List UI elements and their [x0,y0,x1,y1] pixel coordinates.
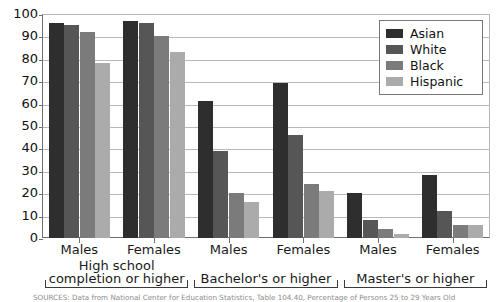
bar-group [266,14,341,238]
legend-item-black[interactable]: Black [386,57,477,73]
bar-black-females-1 [154,36,169,238]
bar-white-males-0 [64,25,79,238]
x-axis-category-label: Females [117,243,192,257]
bar-asian-males-2 [198,101,213,238]
x-axis-category-labels: MalesFemalesMalesFemalesMalesFemales [42,243,490,259]
group-bracket: High school completion or higher [45,262,188,292]
source-note: SOURCES: Data from National Center for E… [33,293,493,302]
y-axis-tick-label: 90 [0,29,38,42]
group-bracket: Bachelor's or higher [194,262,337,292]
legend-item-label: Hispanic [410,75,463,88]
bar-chart-figure: 0102030405060708090100 MalesFemalesMales… [0,0,500,302]
group-bracket-label: Bachelor's or higher [194,272,337,285]
legend-item-hispanic[interactable]: Hispanic [386,73,477,89]
bar-hispanic-males-0 [95,63,110,238]
y-axis-tick-label: 30 [0,164,38,177]
bar-hispanic-males-4 [394,234,409,238]
bar-asian-females-5 [422,175,437,238]
y-axis-tick-label: 20 [0,186,38,199]
bar-group [191,14,266,238]
legend-swatch-icon [386,61,403,70]
bar-black-females-5 [453,225,468,238]
bar-white-males-2 [213,151,228,238]
bar-asian-females-1 [123,21,138,238]
y-axis-tick-label: 10 [0,209,38,222]
bar-asian-females-3 [273,83,288,238]
y-axis-tick-label: 60 [0,97,38,110]
bar-hispanic-males-2 [244,202,259,238]
x-axis-category-label: Males [341,243,416,257]
x-axis-category-label: Females [415,243,490,257]
bar-white-females-5 [437,211,452,238]
group-brackets: High school completion or higherBachelor… [42,262,490,294]
group-bracket-label: Master's or higher [344,272,487,285]
group-bracket: Master's or higher [344,262,487,292]
legend-swatch-icon [386,29,403,38]
bar-group [42,14,117,238]
bar-hispanic-females-3 [319,191,334,238]
x-axis-category-label: Males [42,243,117,257]
y-axis-tick-mark [39,239,43,240]
y-axis-tick-label: 40 [0,141,38,154]
bar-hispanic-females-1 [170,52,185,238]
bar-asian-males-4 [347,193,362,238]
bracket-line [344,287,487,288]
legend-item-label: Asian [410,27,444,40]
bar-black-males-4 [378,229,393,238]
bracket-line [194,287,337,288]
chart-legend: AsianWhiteBlackHispanic [379,20,483,95]
x-axis-category-label: Males [191,243,266,257]
bar-white-females-1 [139,23,154,238]
bar-hispanic-females-5 [468,225,483,238]
y-axis-tick-label: 100 [0,7,38,20]
bar-black-females-3 [304,184,319,238]
group-bracket-label: High school completion or higher [45,259,188,285]
bar-asian-males-0 [49,23,64,238]
bar-group [117,14,192,238]
x-axis-category-label: Females [266,243,341,257]
bar-black-males-0 [80,32,95,238]
bar-white-males-4 [363,220,378,238]
y-axis-tick-label: 80 [0,52,38,65]
y-axis-tick-label: 70 [0,74,38,87]
bar-white-females-3 [288,135,303,238]
legend-item-label: Black [410,59,444,72]
legend-item-white[interactable]: White [386,41,477,57]
y-axis-tick-label: 0 [0,231,38,244]
legend-swatch-icon [386,45,403,54]
y-axis-tick-label: 50 [0,119,38,132]
legend-item-label: White [410,43,446,56]
bracket-line [45,287,188,288]
legend-item-asian[interactable]: Asian [386,25,477,41]
legend-swatch-icon [386,77,403,86]
bar-black-males-2 [229,193,244,238]
